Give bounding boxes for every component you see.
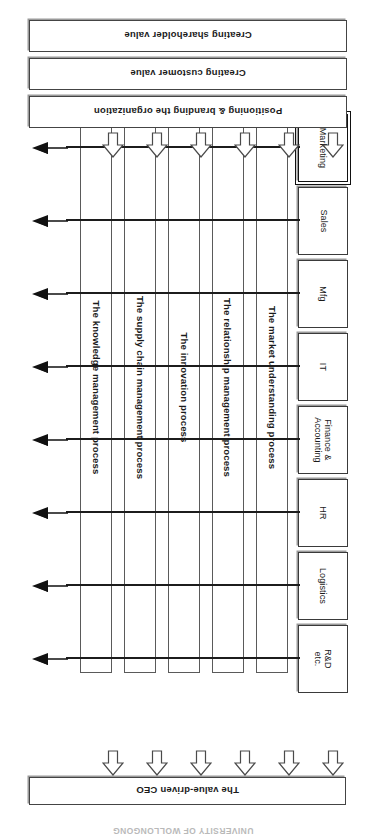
department-box[interactable]: R&D etc. <box>298 625 348 693</box>
value-upward-arrow-icon <box>234 132 256 158</box>
process-band-label: The supply chain management process <box>134 296 145 479</box>
process-band[interactable]: The knowledge management process <box>80 103 112 673</box>
process-band-label: The relationship management process <box>223 299 234 478</box>
process-band-label: The innovation process <box>178 333 189 443</box>
ceo-upward-arrow-icon <box>102 750 124 776</box>
department-box[interactable]: HR <box>298 479 348 547</box>
value-upward-arrow-icon <box>278 132 300 158</box>
department-label: Logistics <box>318 568 328 604</box>
department-label: R&D etc. <box>313 649 333 668</box>
process-band[interactable]: The supply chain management process <box>124 103 156 673</box>
value-upward-arrow-icon <box>322 132 344 158</box>
department-box[interactable]: Logistics <box>298 552 348 620</box>
department-label: IT <box>318 363 328 371</box>
department-connector-line <box>66 511 300 513</box>
output-arrow-icon <box>32 140 68 156</box>
department-box[interactable]: Sales <box>298 187 348 255</box>
ceo-upward-arrow-icon <box>322 750 344 776</box>
value-banner: Creating customer value <box>29 58 347 90</box>
process-band[interactable]: The innovation process <box>168 103 200 673</box>
department-box[interactable]: Finance & Accounting <box>298 406 348 474</box>
department-label: Mfg <box>318 286 328 301</box>
page-title: UNIVERSITY OF WOLLONGONG <box>0 826 366 836</box>
department-label: HR <box>318 506 328 519</box>
value-banner: Positioning & branding the organization <box>29 96 347 128</box>
department-connector-line <box>66 438 300 440</box>
department-box[interactable]: Mfg <box>298 260 348 328</box>
ceo-upward-arrow-icon <box>234 750 256 776</box>
process-band-label: The market understanding process <box>266 306 277 469</box>
department-connector-line <box>66 292 300 294</box>
value-upward-arrow-icon <box>146 132 168 158</box>
department-connector-line <box>66 584 300 586</box>
output-arrow-icon <box>32 432 68 448</box>
value-upward-arrow-icon <box>102 132 124 158</box>
output-arrow-icon <box>32 578 68 594</box>
output-arrow-icon <box>32 505 68 521</box>
ceo-banner: The value-driven CEO <box>29 777 346 805</box>
ceo-upward-arrow-icon <box>190 750 212 776</box>
value-upward-arrow-icon <box>190 132 212 158</box>
ceo-upward-arrow-icon <box>146 750 168 776</box>
department-label: Sales <box>318 210 328 233</box>
process-framework-diagram: UNIVERSITY OF WOLLONGONG The value-drive… <box>0 0 366 838</box>
department-connector-line <box>66 657 300 659</box>
value-banner: Creating shareholder value <box>29 20 347 52</box>
process-band-label: The knowledge management process <box>91 301 102 475</box>
output-arrow-icon <box>32 359 68 375</box>
department-box[interactable]: IT <box>298 333 348 401</box>
department-connector-line <box>66 219 300 221</box>
process-band[interactable]: The market understanding process <box>256 103 288 673</box>
output-arrow-icon <box>32 651 68 667</box>
department-label: Finance & Accounting <box>313 417 333 463</box>
output-arrow-icon <box>32 286 68 302</box>
department-connector-line <box>66 365 300 367</box>
ceo-upward-arrow-icon <box>278 750 300 776</box>
output-arrow-icon <box>32 213 68 229</box>
process-band[interactable]: The relationship management process <box>212 103 244 673</box>
